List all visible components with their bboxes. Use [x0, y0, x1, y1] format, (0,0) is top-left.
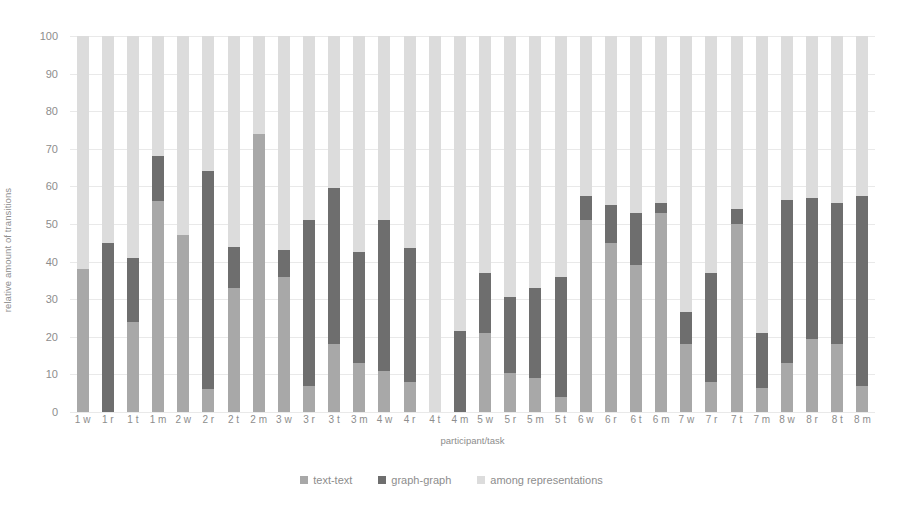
- bar-segment-text-text[interactable]: [831, 344, 843, 412]
- bar-segment-text-text[interactable]: [529, 378, 541, 412]
- bar-segment-among-representations[interactable]: [479, 36, 491, 273]
- stacked-bar[interactable]: [454, 36, 466, 412]
- bar-segment-among-representations[interactable]: [680, 36, 692, 312]
- bar-segment-graph-graph[interactable]: [202, 171, 214, 389]
- stacked-bar[interactable]: [655, 36, 667, 412]
- stacked-bar[interactable]: [731, 36, 743, 412]
- stacked-bar[interactable]: [580, 36, 592, 412]
- stacked-bar[interactable]: [77, 36, 89, 412]
- bar-segment-among-representations[interactable]: [630, 36, 642, 213]
- bar-slot[interactable]: [196, 36, 221, 412]
- bar-slot[interactable]: [850, 36, 875, 412]
- bar-slot[interactable]: [95, 36, 120, 412]
- bar-segment-graph-graph[interactable]: [303, 220, 315, 385]
- bar-segment-text-text[interactable]: [328, 344, 340, 412]
- bar-segment-among-representations[interactable]: [529, 36, 541, 288]
- bar-slot[interactable]: [523, 36, 548, 412]
- bar-segment-text-text[interactable]: [303, 386, 315, 412]
- bar-segment-text-text[interactable]: [806, 339, 818, 412]
- bar-slot[interactable]: [221, 36, 246, 412]
- bar-segment-graph-graph[interactable]: [504, 297, 516, 372]
- stacked-bar[interactable]: [127, 36, 139, 412]
- bar-slot[interactable]: [623, 36, 648, 412]
- bar-slot[interactable]: [649, 36, 674, 412]
- stacked-bar[interactable]: [378, 36, 390, 412]
- bar-segment-graph-graph[interactable]: [655, 203, 667, 212]
- stacked-bar[interactable]: [831, 36, 843, 412]
- bar-segment-text-text[interactable]: [555, 397, 567, 412]
- bar-slot[interactable]: [473, 36, 498, 412]
- legend-item[interactable]: text-text: [300, 474, 352, 486]
- stacked-bar[interactable]: [806, 36, 818, 412]
- bar-segment-graph-graph[interactable]: [454, 331, 466, 412]
- bar-segment-among-representations[interactable]: [731, 36, 743, 209]
- bar-segment-among-representations[interactable]: [77, 36, 89, 269]
- bar-segment-graph-graph[interactable]: [605, 205, 617, 243]
- bar-segment-text-text[interactable]: [731, 224, 743, 412]
- bar-segment-text-text[interactable]: [353, 363, 365, 412]
- bar-segment-among-representations[interactable]: [429, 36, 441, 412]
- bar-segment-text-text[interactable]: [77, 269, 89, 412]
- bar-slot[interactable]: [774, 36, 799, 412]
- bar-segment-graph-graph[interactable]: [680, 312, 692, 344]
- bar-segment-text-text[interactable]: [202, 389, 214, 412]
- stacked-bar[interactable]: [680, 36, 692, 412]
- bar-segment-among-representations[interactable]: [580, 36, 592, 196]
- stacked-bar[interactable]: [202, 36, 214, 412]
- bar-segment-text-text[interactable]: [253, 134, 265, 412]
- stacked-bar[interactable]: [856, 36, 868, 412]
- bar-segment-text-text[interactable]: [378, 371, 390, 412]
- bar-segment-text-text[interactable]: [404, 382, 416, 412]
- bar-segment-text-text[interactable]: [228, 288, 240, 412]
- bar-segment-among-representations[interactable]: [303, 36, 315, 220]
- stacked-bar[interactable]: [303, 36, 315, 412]
- bar-slot[interactable]: [548, 36, 573, 412]
- bar-segment-text-text[interactable]: [680, 344, 692, 412]
- bar-slot[interactable]: [422, 36, 447, 412]
- stacked-bar[interactable]: [328, 36, 340, 412]
- bar-segment-graph-graph[interactable]: [529, 288, 541, 378]
- bar-segment-text-text[interactable]: [856, 386, 868, 412]
- bar-segment-text-text[interactable]: [655, 213, 667, 412]
- bar-segment-text-text[interactable]: [605, 243, 617, 412]
- bar-segment-among-representations[interactable]: [655, 36, 667, 203]
- bar-segment-text-text[interactable]: [177, 235, 189, 412]
- bar-slot[interactable]: [699, 36, 724, 412]
- stacked-bar[interactable]: [479, 36, 491, 412]
- stacked-bar[interactable]: [102, 36, 114, 412]
- bar-slot[interactable]: [598, 36, 623, 412]
- stacked-bar[interactable]: [278, 36, 290, 412]
- bar-segment-text-text[interactable]: [781, 363, 793, 412]
- stacked-bar[interactable]: [705, 36, 717, 412]
- bar-segment-graph-graph[interactable]: [479, 273, 491, 333]
- bar-segment-among-representations[interactable]: [756, 36, 768, 333]
- bar-segment-among-representations[interactable]: [705, 36, 717, 273]
- bar-slot[interactable]: [145, 36, 170, 412]
- bar-segment-text-text[interactable]: [152, 201, 164, 412]
- bar-segment-among-representations[interactable]: [102, 36, 114, 243]
- bar-segment-text-text[interactable]: [705, 382, 717, 412]
- bar-segment-graph-graph[interactable]: [353, 252, 365, 363]
- bar-segment-text-text[interactable]: [504, 373, 516, 412]
- bar-slot[interactable]: [347, 36, 372, 412]
- bar-segment-text-text[interactable]: [756, 388, 768, 412]
- stacked-bar[interactable]: [152, 36, 164, 412]
- bar-segment-among-representations[interactable]: [605, 36, 617, 205]
- stacked-bar[interactable]: [353, 36, 365, 412]
- bar-slot[interactable]: [674, 36, 699, 412]
- bar-segment-text-text[interactable]: [580, 220, 592, 412]
- bar-segment-among-representations[interactable]: [228, 36, 240, 247]
- bar-segment-graph-graph[interactable]: [102, 243, 114, 412]
- stacked-bar[interactable]: [555, 36, 567, 412]
- bar-segment-text-text[interactable]: [127, 322, 139, 412]
- stacked-bar[interactable]: [630, 36, 642, 412]
- stacked-bar[interactable]: [404, 36, 416, 412]
- bar-segment-graph-graph[interactable]: [856, 196, 868, 386]
- bar-segment-among-representations[interactable]: [781, 36, 793, 200]
- bar-slot[interactable]: [573, 36, 598, 412]
- bar-segment-graph-graph[interactable]: [127, 258, 139, 322]
- stacked-bar[interactable]: [781, 36, 793, 412]
- bar-slot[interactable]: [372, 36, 397, 412]
- legend-item[interactable]: graph-graph: [378, 474, 451, 486]
- bar-segment-text-text[interactable]: [278, 277, 290, 412]
